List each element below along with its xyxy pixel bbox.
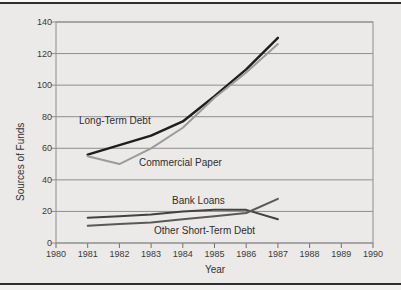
x-tick-label: 1984 [167,249,199,259]
x-axis-tick-marks [56,243,373,248]
series-label-bank-loans: Bank Loans [172,195,225,206]
x-tick-label: 1990 [357,249,389,259]
y-tick-label: 0 [20,238,52,248]
y-tick-label: 80 [20,112,52,122]
x-tick-label: 1985 [199,249,231,259]
series-label-long-term-debt: Long-Term Debt [79,115,151,126]
y-tick-label: 100 [20,80,52,90]
x-tick-label: 1980 [40,249,72,259]
x-tick-label: 1989 [325,249,357,259]
y-tick-label: 140 [20,17,52,27]
x-tick-label: 1986 [230,249,262,259]
y-tick-label: 20 [20,206,52,216]
x-tick-label: 1981 [72,249,104,259]
x-tick-label: 1987 [262,249,294,259]
x-axis-title: Year [194,264,236,275]
page-margin-bottom [0,285,401,290]
y-axis-title: Sources of Funds [15,123,26,201]
figure: 020406080100120140 198019811982198319841… [0,0,401,290]
x-tick-label: 1988 [294,249,326,259]
y-tick-label: 120 [20,49,52,59]
x-tick-label: 1982 [103,249,135,259]
series-label-commercial-paper: Commercial Paper [139,157,222,168]
chart-plot [0,0,401,290]
x-tick-label: 1983 [135,249,167,259]
series-label-other-short-term-debt: Other Short-Term Debt [154,225,255,236]
